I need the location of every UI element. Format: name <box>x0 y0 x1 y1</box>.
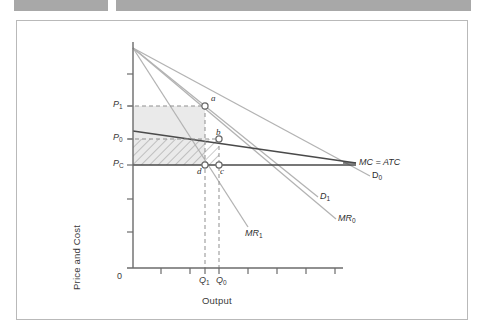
y-tick-label-P1-sub: 1 <box>119 103 123 110</box>
x-axis-ticks <box>161 268 335 274</box>
y-tick-label-PC: PC <box>113 158 124 168</box>
curve-label-MR1: MR1 <box>245 228 263 238</box>
figure-page: Price and Cost Output 0 P1 P0 PC Q1 Q0 a… <box>0 0 484 335</box>
point-marker-a <box>202 103 208 109</box>
curve-label-D0-sub: 0 <box>379 174 383 181</box>
y-tick-label-PC-sub: C <box>119 162 124 169</box>
y-tick-label-P1: P1 <box>113 99 123 109</box>
y-axis-title: Price and Cost <box>71 225 82 290</box>
y-axis-ticks <box>127 74 133 232</box>
x-tick-label-Q0: Q0 <box>216 275 227 285</box>
curve-label-MR1-sub: 1 <box>259 232 263 239</box>
x-tick-label-Q0-sub: 0 <box>223 279 227 286</box>
origin-label: 0 <box>117 271 122 281</box>
curve-label-MR0: MR0 <box>338 213 356 223</box>
curve-label-D1: D1 <box>320 191 330 201</box>
point-label-d: d <box>197 166 202 176</box>
y-axis-title-wrap: Price and Cost <box>92 130 106 230</box>
point-label-b: b <box>216 127 221 137</box>
y-tick-label-P0-sub: 0 <box>119 136 123 143</box>
curve-label-D0: D0 <box>372 170 382 180</box>
x-tick-label-Q1-sub: 1 <box>206 279 210 286</box>
x-axis-title: Output <box>202 295 232 306</box>
curve-label-D0-text: D <box>372 170 379 180</box>
point-label-a: a <box>211 93 216 103</box>
x-tick-label-Q1: Q1 <box>199 275 210 285</box>
curve-label-D1-sub: 1 <box>327 195 331 202</box>
curve-label-MR0-text: MR <box>338 213 352 223</box>
x-tick-label-Q1-text: Q <box>199 275 206 285</box>
curve-label-D1-text: D <box>320 191 327 201</box>
x-tick-label-Q0-text: Q <box>216 275 223 285</box>
curve-label-mc-atc: MC = ATC <box>359 157 400 167</box>
point-marker-d <box>202 162 208 168</box>
curve-label-MR0-sub: 0 <box>352 217 356 224</box>
point-label-c: c <box>220 166 224 176</box>
curve-label-MR1-text: MR <box>245 228 259 238</box>
y-tick-label-P0: P0 <box>113 132 123 142</box>
